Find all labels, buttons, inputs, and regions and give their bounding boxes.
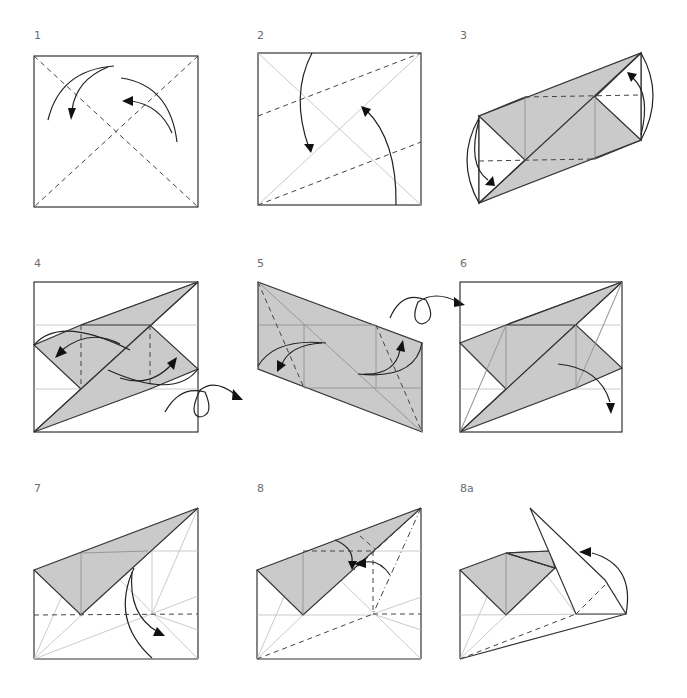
step-8: 8 xyxy=(230,460,460,698)
step-6: 6 xyxy=(450,240,687,450)
step-3-diagram xyxy=(455,0,687,230)
step-5: 5 xyxy=(240,240,470,450)
step-1: 1 xyxy=(0,0,230,230)
step-8a: 8a xyxy=(450,460,687,698)
step-7: 7 xyxy=(0,460,240,698)
step-4-diagram xyxy=(0,240,250,450)
step-6-diagram xyxy=(450,240,687,450)
step-2: 2 xyxy=(230,0,460,230)
step-1-diagram xyxy=(0,0,230,230)
step-7-diagram xyxy=(0,460,240,698)
step-3: 3 xyxy=(455,0,687,230)
step-8-diagram xyxy=(230,460,460,698)
step-5-diagram xyxy=(240,240,470,450)
step-2-diagram xyxy=(230,0,460,230)
step-8a-diagram xyxy=(450,460,687,698)
step-4: 4 xyxy=(0,240,250,450)
